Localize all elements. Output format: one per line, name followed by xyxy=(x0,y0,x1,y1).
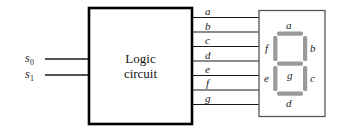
output-label-d: d xyxy=(205,50,211,61)
segment-c xyxy=(303,66,307,91)
input-label-s0-sub: 0 xyxy=(30,58,34,67)
input-label-s0-base: s xyxy=(25,51,30,65)
output-label-e: e xyxy=(205,64,210,75)
segment-label-f: f xyxy=(265,43,268,54)
output-label-g: g xyxy=(205,93,211,104)
segment-label-g: g xyxy=(287,70,293,81)
segment-label-b: b xyxy=(310,43,316,54)
output-label-f: f xyxy=(206,78,209,89)
segment-d xyxy=(277,92,303,96)
output-label-c: c xyxy=(205,35,210,46)
logic-circuit-label: Logic circuit xyxy=(89,52,192,81)
segment-label-e: e xyxy=(264,73,269,84)
output-label-a: a xyxy=(205,6,211,17)
segment-label-d: d xyxy=(286,98,292,109)
segment-a xyxy=(277,32,303,36)
input-label-s1-base: s xyxy=(25,67,30,81)
input-label-s1-sub: 1 xyxy=(30,74,34,83)
input-label-s0: s0 xyxy=(25,52,34,64)
logic-circuit-label-line2: circuit xyxy=(89,67,192,82)
segment-label-c: c xyxy=(310,73,315,84)
segment-b xyxy=(303,36,307,61)
output-label-b: b xyxy=(205,21,211,32)
figure-canvas: s0 s1 Logic circuit a b c d e f g a b c … xyxy=(0,0,340,133)
segment-f xyxy=(273,36,277,61)
segment-label-a: a xyxy=(286,20,292,31)
input-label-s1: s1 xyxy=(25,68,34,80)
segment-e xyxy=(273,66,277,91)
logic-circuit-label-line1: Logic xyxy=(89,52,192,67)
segment-g xyxy=(277,62,303,66)
